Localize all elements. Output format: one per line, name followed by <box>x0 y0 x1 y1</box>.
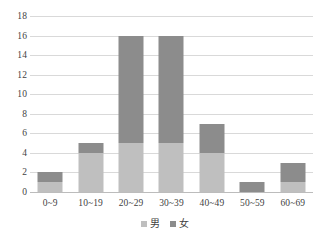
y-tick-label: 0 <box>3 187 27 197</box>
x-tick-label: 60~69 <box>273 196 313 210</box>
y-axis: 024681012141618 <box>0 16 27 192</box>
x-axis: 0~910~1920~2930~3940~4950~5960~69 <box>30 196 313 212</box>
y-tick-label: 14 <box>3 50 27 60</box>
bar-segment-女[interactable] <box>119 36 144 144</box>
bar-group[interactable] <box>192 16 232 192</box>
bar-stack[interactable] <box>78 143 103 192</box>
y-tick-label: 18 <box>3 11 27 21</box>
bar-segment-男[interactable] <box>119 143 144 192</box>
x-tick-label: 0~9 <box>30 196 70 210</box>
bar-segment-男[interactable] <box>199 153 224 192</box>
bars-layer <box>30 16 313 192</box>
bar-group[interactable] <box>111 16 151 192</box>
bar-stack[interactable] <box>240 182 265 192</box>
legend-item-女[interactable]: 女 <box>170 218 189 229</box>
bar-segment-男[interactable] <box>280 182 305 192</box>
y-tick-label: 4 <box>3 148 27 158</box>
bar-group[interactable] <box>151 16 191 192</box>
stacked-bar-chart: 024681012141618 0~910~1920~2930~3940~495… <box>0 0 329 238</box>
bar-segment-女[interactable] <box>38 172 63 182</box>
x-tick-label: 30~39 <box>151 196 191 210</box>
y-tick-label: 12 <box>3 70 27 80</box>
y-tick-label: 8 <box>3 109 27 119</box>
x-tick-label: 10~19 <box>70 196 110 210</box>
bar-group[interactable] <box>273 16 313 192</box>
x-tick-label: 50~59 <box>232 196 272 210</box>
bar-group[interactable] <box>30 16 70 192</box>
bar-stack[interactable] <box>119 36 144 192</box>
bar-segment-女[interactable] <box>159 36 184 144</box>
bar-segment-女[interactable] <box>78 143 103 153</box>
legend-label: 女 <box>179 218 189 229</box>
legend-label: 男 <box>150 218 160 229</box>
bar-group[interactable] <box>232 16 272 192</box>
chart-legend: 男女 <box>0 218 329 229</box>
bar-segment-男[interactable] <box>38 182 63 192</box>
y-tick-label: 6 <box>3 128 27 138</box>
legend-swatch-icon <box>141 221 147 227</box>
bar-segment-女[interactable] <box>240 182 265 192</box>
bar-segment-男[interactable] <box>78 153 103 192</box>
bar-segment-男[interactable] <box>159 143 184 192</box>
bar-stack[interactable] <box>199 124 224 192</box>
bar-segment-女[interactable] <box>199 124 224 153</box>
bar-stack[interactable] <box>159 36 184 192</box>
x-tick-label: 40~49 <box>192 196 232 210</box>
legend-swatch-icon <box>170 221 176 227</box>
y-tick-label: 16 <box>3 31 27 41</box>
bar-segment-女[interactable] <box>280 163 305 183</box>
bar-stack[interactable] <box>38 172 63 192</box>
bar-stack[interactable] <box>280 163 305 192</box>
x-tick-label: 20~29 <box>111 196 151 210</box>
gridline <box>30 192 313 193</box>
bar-group[interactable] <box>70 16 110 192</box>
y-tick-label: 2 <box>3 167 27 177</box>
y-tick-label: 10 <box>3 89 27 99</box>
legend-item-男[interactable]: 男 <box>141 218 160 229</box>
